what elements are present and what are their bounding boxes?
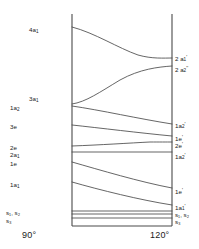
left-orbital-label-3a1: 3a1 bbox=[29, 96, 38, 103]
left-orbital-label-2a1: 2a1 bbox=[10, 152, 19, 159]
right-orbital-label-1ep2: 1e' bbox=[175, 188, 183, 195]
orbital-curve-4a1 bbox=[72, 27, 172, 58]
axis-tick-left: 90° bbox=[22, 230, 36, 240]
left-orbital-label-3e: 3e bbox=[10, 124, 17, 130]
left-orbital-label-s3: s₃ bbox=[6, 218, 12, 224]
left-orbital-label-1a1: 1a1 bbox=[10, 182, 19, 189]
right-orbital-label-1a2p2: 1a2' bbox=[175, 153, 185, 161]
left-orbital-label-s1s2: s₁, s₂ bbox=[6, 210, 20, 216]
right-orbital-label-2a2pp: 2 a2'' bbox=[175, 66, 188, 74]
left-orbital-label-1a2: 1a2 bbox=[10, 105, 19, 112]
right-orbital-label-s3r: s₃ bbox=[175, 219, 181, 225]
orbital-curve-1a2 bbox=[72, 106, 172, 124]
right-orbital-label-2a1p: 2 a1' bbox=[175, 55, 187, 63]
orbital-curve-3a1 bbox=[72, 66, 172, 104]
orbital-curve-3e bbox=[72, 125, 172, 136]
orbital-curve-1a1 bbox=[72, 182, 172, 205]
left-orbital-label-1e: 1e bbox=[10, 161, 17, 167]
right-orbital-label-2ep: 2e' bbox=[175, 142, 183, 149]
axis-tick-right: 120° bbox=[150, 230, 169, 240]
orbital-curve-2e bbox=[72, 142, 172, 146]
walsh-diagram-figure: 4a13a11a23e2e2a11e1a1s₁, s₂s₃ 2 a1'2 a2'… bbox=[0, 0, 199, 249]
left-orbital-label-4a1: 4a1 bbox=[29, 27, 38, 34]
orbital-curve-1e bbox=[72, 162, 172, 188]
orbital-correlation-plot bbox=[0, 0, 199, 249]
right-orbital-label-1a2p: 1a2' bbox=[175, 122, 185, 130]
